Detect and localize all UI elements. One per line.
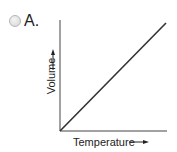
y-arrowhead-icon: [51, 49, 55, 55]
data-line: [60, 23, 166, 131]
chart: [0, 0, 177, 152]
x-axis-label: Temperature: [73, 136, 135, 148]
x-arrowhead-icon: [143, 140, 149, 144]
y-axis-label: Volume: [45, 58, 57, 95]
